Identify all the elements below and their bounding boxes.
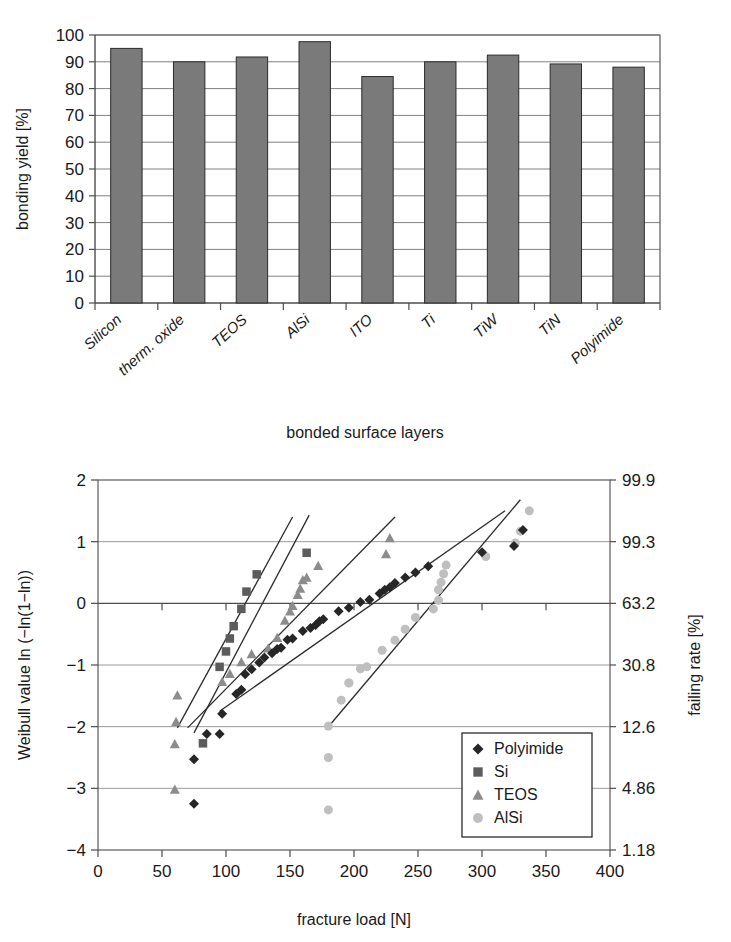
weibull-right-tick-label: 4.86 [622,779,655,798]
weibull-fit-line [326,500,521,730]
bar-rect [550,64,581,303]
marker-circle [378,646,387,655]
bar-y-tick-label: 40 [65,187,84,206]
weibull-left-tick-label: −4 [67,841,86,860]
marker-diamond [215,729,225,739]
weibull-x-tick-label: 300 [468,862,496,881]
marker-square [252,570,261,579]
marker-circle [362,662,371,671]
bar-category-label: Silicon [80,311,124,353]
weibull-fit-lines [177,500,520,733]
bar-rect [173,62,204,303]
bar-y-tick-label: 30 [65,214,84,233]
marker-circle [525,506,534,515]
marker-triangle [217,677,227,686]
weibull-x-tick-label: 150 [276,862,304,881]
bar-rect [613,67,644,303]
weibull-left-tick-label: −3 [67,779,86,798]
marker-square [199,739,208,748]
marker-circle [324,805,333,814]
bar-category-label: ITO [346,310,376,339]
marker-triangle [170,785,180,794]
bar-y-tick-label: 60 [65,133,84,152]
weibull-x-axis-title: fracture load [N] [297,911,411,928]
bar-chart-x-axis-title: bonded surface layers [286,424,443,441]
weibull-x-tick-label: 400 [596,862,624,881]
bar-category-label: Ti [418,310,439,331]
marker-triangle [171,717,181,726]
bar-y-tick-label: 10 [65,267,84,286]
weibull-right-tick-label: 1.18 [622,841,655,860]
weibull-x-tick-label: 100 [212,862,240,881]
bar-y-tick-label: 0 [75,294,84,313]
bar-rect [425,62,456,303]
weibull-fit-line [220,511,505,711]
weibull-left-tick-label: 2 [77,471,86,490]
marker-triangle [170,739,180,748]
marker-diamond [217,709,227,719]
bar-chart-y-axis-title: bonding yield [%] [14,108,31,230]
marker-diamond [355,597,365,607]
weibull-right-tick-label: 63.2 [622,594,655,613]
weibull-left-tick-label: 1 [77,533,86,552]
weibull-series-si [199,549,311,748]
marker-triangle [313,561,323,570]
bar-rect [236,57,267,303]
marker-square [226,634,235,643]
bar-category-label: TiW [470,309,502,341]
weibull-fit-line [194,515,309,733]
marker-circle [337,696,346,705]
weibull-x-tick-label: 350 [532,862,560,881]
bar-y-tick-label: 80 [65,80,84,99]
marker-diamond [334,606,344,616]
weibull-legend: PolyimideSiTEOSAlSi [462,733,592,837]
marker-circle [473,813,483,823]
bar-y-tick-label: 20 [65,240,84,259]
marker-square [215,663,224,672]
weibull-x-tick-label: 250 [404,862,432,881]
weibull-left-tick-label: 0 [77,594,86,613]
marker-triangle [385,533,395,542]
bar-rect [362,77,393,303]
weibull-right-tick-label: 99.3 [622,533,655,552]
marker-square [302,549,311,558]
marker-square [237,605,246,614]
marker-circle [442,561,451,570]
marker-circle [439,569,448,578]
weibull-legend-label: TEOS [494,786,538,803]
bar-category-label: Polyimide [567,311,627,367]
weibull-right-tick-label: 99.9 [622,471,655,490]
bar-chart-x-axis-ticks [95,303,660,310]
bar-rect [111,48,142,303]
bar-y-tick-label: 70 [65,106,84,125]
bar-y-tick-label: 100 [56,26,84,45]
bonding-yield-bar-chart: 0102030405060708090100 Silicontherm. oxi… [0,0,731,455]
marker-triangle [288,601,298,610]
bar-category-label: AlSi [281,310,313,342]
bar-category-label: TEOS [208,311,250,351]
marker-square [222,647,231,656]
marker-circle [344,678,353,687]
bar-y-tick-label: 50 [65,160,84,179]
marker-triangle [280,616,290,625]
weibull-scatter-chart: 210−1−2−3−4 99.999.363.230.812.64.861.18… [0,455,731,942]
marker-circle [401,625,410,634]
marker-triangle [272,633,282,642]
marker-triangle [236,657,246,666]
weibull-left-tick-label: −1 [67,656,86,675]
marker-diamond [189,799,199,809]
marker-circle [324,722,333,731]
weibull-legend-label: AlSi [494,809,522,826]
marker-diamond [189,754,199,764]
bar-chart-y-axis-ticks: 0102030405060708090100 [56,26,95,313]
marker-triangle [247,649,257,658]
weibull-left-axis-title: Weibull value ln (−ln(1−ln)) [16,570,33,760]
marker-triangle [295,584,305,593]
marker-diamond [400,572,410,582]
weibull-series-teos [170,533,395,794]
bar-rect [299,42,330,303]
marker-circle [429,604,438,613]
bar-rect [487,55,518,303]
weibull-x-tick-label: 200 [340,862,368,881]
bar-category-label: therm. oxide [114,311,187,379]
